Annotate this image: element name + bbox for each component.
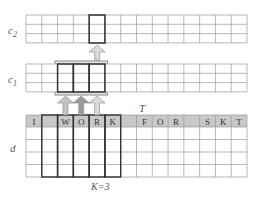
token-cell: K [220, 117, 227, 127]
t-label: T [139, 102, 146, 114]
d-label: d [10, 142, 16, 154]
c1-label: c1 [8, 73, 17, 88]
kernel-size-label: K=3 [90, 181, 109, 192]
token-cell: I [32, 117, 35, 127]
cnn-diagram: IWORKFORSKT c2 c1 d T K=3 [0, 0, 257, 200]
token-cell: F [142, 117, 147, 127]
c2-layer-grid [26, 15, 247, 43]
token-cell: O [78, 117, 85, 127]
token-cell: S [205, 117, 210, 127]
token-cell: T [236, 117, 242, 127]
c1-layer-grid [26, 61, 247, 95]
token-cell: K [110, 117, 117, 127]
token-cell: W [61, 117, 70, 127]
token-cell: R [173, 117, 179, 127]
token-cell: O [157, 117, 164, 127]
token-cell: R [94, 117, 100, 127]
c2-label: c2 [8, 24, 17, 39]
input-embedding-grid: IWORKFORSKT [26, 115, 247, 177]
